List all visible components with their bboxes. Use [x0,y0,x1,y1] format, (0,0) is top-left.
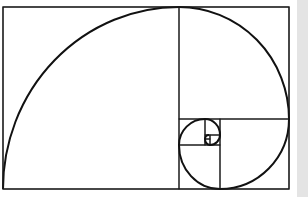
golden-spiral-curve [3,7,289,189]
fibonacci-squares [3,7,289,189]
fibonacci-square [220,119,289,189]
outer-frame [3,7,289,189]
fibonacci-square [3,7,179,189]
side-margin-strip [297,0,308,197]
fibonacci-square [179,7,289,119]
golden-spiral-diagram [0,0,308,197]
golden-spiral-figure [0,0,297,197]
